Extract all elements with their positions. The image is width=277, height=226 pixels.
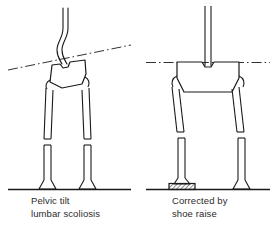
pelvis-left <box>50 60 86 88</box>
hip-hook-left-medial <box>85 77 89 87</box>
femur-right-panel-left-lateral <box>172 87 177 132</box>
femur-left-medial <box>51 90 53 139</box>
spine-left-outer <box>57 8 63 64</box>
femur-left-lateral <box>44 88 46 139</box>
caption-right-line1: Corrected by <box>172 195 228 208</box>
pelvis-right <box>177 62 239 92</box>
caption-right: Corrected by shoe raise <box>172 195 228 220</box>
foot-left <box>39 180 56 189</box>
foot-right <box>79 180 96 189</box>
caption-left: Pelvic tilt lumbar scoliosis <box>31 195 100 220</box>
figure-root: Pelvic tilt lumbar scoliosis Corrected b… <box>0 0 277 226</box>
anatomical-diagram <box>0 0 277 226</box>
panel-left <box>8 8 131 190</box>
shoe-raise-block <box>169 184 195 190</box>
foot-on-ground <box>233 180 250 189</box>
caption-right-line2: shoe raise <box>172 208 228 221</box>
caption-left-line2: lumbar scoliosis <box>31 208 100 221</box>
femur-right-panel-right-medial <box>239 87 244 132</box>
femur-right-panel-right-lateral <box>232 89 237 132</box>
panel-right <box>146 6 270 190</box>
hip-hook-right-lateral <box>172 76 177 87</box>
femur-right-medial <box>89 88 91 139</box>
hip-hook-left-lateral <box>46 80 50 89</box>
hip-hook-right-medial <box>239 76 244 87</box>
caption-left-line1: Pelvic tilt <box>31 195 100 208</box>
femur-right-panel-left-medial <box>179 89 184 132</box>
femur-right-lateral <box>82 90 84 139</box>
